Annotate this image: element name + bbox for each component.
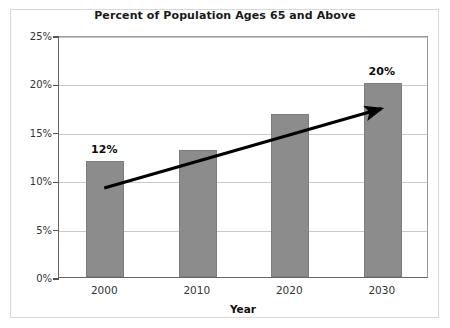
- y-axis-tick: [53, 278, 59, 279]
- x-axis-tick-label: 2020: [276, 284, 303, 296]
- x-axis-title: Year: [230, 303, 256, 315]
- x-axis-tick-label: 2000: [91, 284, 118, 296]
- y-axis-tick: [53, 36, 59, 37]
- x-axis-tick-label: 2030: [368, 284, 395, 296]
- y-axis-tick: [53, 133, 59, 134]
- y-axis-tick: [53, 182, 59, 183]
- y-axis-tick: [53, 85, 59, 86]
- chart-figure: Percent of Population Ages 65 and Above …: [0, 0, 450, 328]
- bar-value-label-2030: 20%: [369, 65, 395, 78]
- bar-2010: [179, 150, 217, 277]
- y-axis-tick: [53, 230, 59, 231]
- bar-2020: [271, 114, 309, 277]
- bar-value-label-2000: 12%: [91, 143, 117, 156]
- bar-2000: [86, 161, 124, 277]
- bar-2030: [364, 83, 402, 277]
- gridline: [59, 37, 427, 38]
- x-axis-tick-label: 2010: [183, 284, 210, 296]
- chart-title: Percent of Population Ages 65 and Above: [0, 9, 450, 22]
